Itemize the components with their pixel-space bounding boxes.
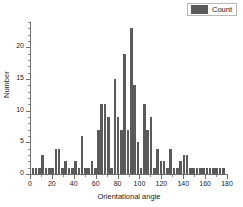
- histogram-chart: Count 05101520 020406080100120140160180 …: [0, 0, 243, 207]
- bar: [146, 130, 149, 174]
- bar: [74, 161, 77, 174]
- x-tick-major: [52, 175, 53, 179]
- bar: [117, 117, 120, 174]
- y-tick-minor: [28, 117, 30, 118]
- y-tick-label: 0: [20, 169, 24, 176]
- y-tick-minor: [28, 130, 30, 131]
- bar: [84, 168, 87, 174]
- y-tick-minor: [28, 41, 30, 42]
- bar: [91, 161, 94, 174]
- x-tick-minor: [129, 175, 130, 177]
- bar: [199, 168, 202, 174]
- bar: [71, 168, 74, 174]
- bar: [202, 168, 205, 174]
- bar: [133, 85, 136, 174]
- bar: [87, 168, 90, 174]
- x-tick-major: [183, 175, 184, 179]
- x-tick-major: [30, 175, 31, 179]
- bar: [120, 130, 123, 174]
- y-tick-label: 20: [16, 42, 24, 49]
- y-tick-minor: [28, 54, 30, 55]
- bar: [156, 149, 159, 174]
- bar: [153, 168, 156, 174]
- bar: [104, 104, 107, 174]
- x-tick-label: 100: [134, 180, 146, 187]
- bar: [186, 155, 189, 174]
- bar: [166, 168, 169, 174]
- y-tick-minor: [28, 66, 30, 67]
- bar: [114, 79, 117, 174]
- bar: [48, 168, 51, 174]
- x-tick-label: 20: [48, 180, 56, 187]
- bar: [38, 168, 41, 174]
- legend-label-count: Count: [212, 6, 232, 14]
- y-tick-minor: [28, 22, 30, 23]
- x-tick-major: [74, 175, 75, 179]
- y-tick-minor: [28, 104, 30, 105]
- x-tick-label: 120: [155, 180, 167, 187]
- y-tick-label: 5: [20, 137, 24, 144]
- y-tick-major: [26, 111, 30, 112]
- x-tick-label: 40: [70, 180, 78, 187]
- bar: [110, 168, 113, 174]
- bar: [81, 136, 84, 174]
- x-tick-major: [227, 175, 228, 179]
- bar: [179, 161, 182, 174]
- bar: [206, 168, 209, 174]
- bar: [58, 149, 61, 174]
- y-tick-minor: [28, 149, 30, 150]
- bar: [196, 168, 199, 174]
- bar: [140, 168, 143, 174]
- bar: [160, 161, 163, 174]
- x-tick-label: 0: [28, 180, 32, 187]
- x-tick-label: 140: [177, 180, 189, 187]
- bar: [143, 104, 146, 174]
- x-tick-minor: [63, 175, 64, 177]
- bar: [192, 168, 195, 174]
- legend-swatch-count: [191, 5, 208, 14]
- y-tick-minor: [28, 92, 30, 93]
- x-tick-major: [205, 175, 206, 179]
- x-tick-minor: [41, 175, 42, 177]
- x-tick-label: 180: [221, 180, 233, 187]
- y-tick-minor: [28, 28, 30, 29]
- y-tick-minor: [28, 35, 30, 36]
- bar: [183, 155, 186, 174]
- x-tick-label: 80: [114, 180, 122, 187]
- x-axis-title: Orientational angle: [30, 192, 228, 201]
- bar: [78, 168, 81, 174]
- y-tick-minor: [28, 73, 30, 74]
- x-tick-major: [96, 175, 97, 179]
- x-tick-minor: [85, 175, 86, 177]
- y-tick-minor: [28, 161, 30, 162]
- plot-area: 05101520 020406080100120140160180: [30, 22, 228, 175]
- x-tick-minor: [216, 175, 217, 177]
- bar: [209, 168, 212, 174]
- bar: [41, 155, 44, 174]
- bar: [97, 130, 100, 174]
- bar: [222, 168, 225, 174]
- bar: [100, 104, 103, 174]
- bar: [45, 168, 48, 174]
- bar: [127, 130, 130, 174]
- bar: [123, 54, 126, 174]
- bar: [35, 168, 38, 174]
- bar-series-count: [31, 22, 228, 174]
- y-tick-minor: [28, 155, 30, 156]
- bar: [68, 168, 71, 174]
- y-tick-label: 10: [16, 105, 24, 112]
- y-tick-minor: [28, 98, 30, 99]
- bar: [32, 168, 35, 174]
- bar: [64, 161, 67, 174]
- x-tick-minor: [150, 175, 151, 177]
- bar: [150, 117, 153, 174]
- y-tick-minor: [28, 136, 30, 137]
- y-axis-title: Number: [2, 71, 11, 98]
- bar: [61, 168, 64, 174]
- bar: [173, 168, 176, 174]
- y-tick-minor: [28, 168, 30, 169]
- y-tick-major: [26, 79, 30, 80]
- x-tick-minor: [172, 175, 173, 177]
- bar: [212, 168, 215, 174]
- x-tick-minor: [194, 175, 195, 177]
